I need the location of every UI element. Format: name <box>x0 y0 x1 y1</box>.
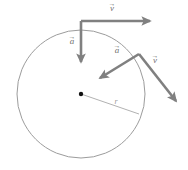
radius-label: r <box>114 97 118 106</box>
center-dot <box>79 92 83 96</box>
velocity-right-vector-accent-icon: → <box>152 52 159 60</box>
velocity-top-vector-accent-icon: → <box>109 0 116 8</box>
acceleration-right-vector-accent-icon: → <box>114 42 121 50</box>
acceleration-top-vector-accent-icon: → <box>69 33 76 41</box>
acceleration-right-arrow <box>100 54 139 78</box>
circular-motion-figure: v→a→v→a→ r <box>0 0 188 170</box>
vector-group: v→a→v→a→ <box>69 0 177 101</box>
figure-canvas: v→a→v→a→ r <box>0 0 188 170</box>
radius-line <box>81 94 139 114</box>
